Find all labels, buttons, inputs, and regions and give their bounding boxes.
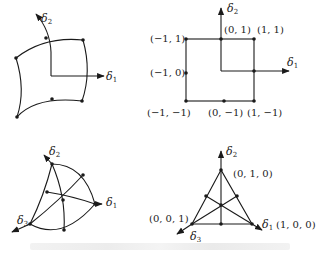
node-label-1-1: (1, 1) — [257, 24, 284, 35]
node — [45, 190, 49, 194]
node — [80, 99, 84, 103]
panel-curved-quad — [16, 14, 104, 117]
square-nodes — [184, 37, 256, 103]
delta1-label: δ1 — [106, 196, 117, 210]
node — [204, 194, 208, 198]
node — [252, 37, 256, 41]
panel-reference-triangle — [177, 151, 262, 234]
figure-caption — [30, 243, 290, 250]
quad-bottom-edge — [17, 100, 82, 117]
square-outline — [186, 39, 254, 101]
delta3-label: δ3 — [17, 214, 28, 228]
delta3-label: δ3 — [190, 230, 201, 244]
node — [61, 198, 65, 202]
node — [15, 115, 19, 119]
node — [81, 173, 85, 177]
node — [81, 38, 85, 42]
delta1-label: δ1 — [287, 56, 298, 70]
node — [28, 222, 32, 226]
node — [250, 222, 254, 226]
node — [222, 99, 226, 103]
node — [50, 97, 54, 101]
node — [219, 222, 223, 226]
node — [219, 168, 223, 172]
delta1-label: δ1 — [262, 218, 273, 232]
node-label-m1-1: (−1, 1) — [150, 33, 185, 44]
tri-median-2 — [47, 192, 95, 204]
node — [219, 37, 223, 41]
delta2-label: δ2 — [226, 145, 237, 159]
node — [14, 56, 18, 60]
delta2-label: δ2 — [227, 2, 238, 16]
quad-nodes — [14, 36, 85, 119]
quad-right-edge — [82, 40, 87, 101]
delta2-label: δ2 — [41, 12, 52, 26]
panel-reference-square — [186, 8, 289, 101]
node — [190, 222, 194, 226]
node-label-0-1: (0, 1) — [224, 24, 251, 35]
tri-outer-bottom — [30, 204, 95, 230]
node — [235, 194, 239, 198]
node — [93, 202, 97, 206]
node-label-010: (0, 1, 0) — [233, 168, 273, 179]
node — [252, 99, 256, 103]
node — [50, 162, 54, 166]
node-label-m1-m1: (−1, −1) — [147, 107, 191, 118]
delta1-label: δ1 — [106, 70, 117, 84]
tri-median-right — [206, 196, 252, 224]
delta2-label: δ2 — [49, 145, 60, 159]
node — [44, 36, 48, 40]
node-label-1-m1: (1, −1) — [247, 107, 282, 118]
tri-median-3 — [52, 164, 64, 230]
node — [62, 228, 66, 232]
diagram-canvas: δ2 δ1 δ2 δ1 (0, 1) (1, 1) (−1, 1) (−1, 0… — [0, 0, 318, 255]
node — [184, 99, 188, 103]
tri-median-1 — [30, 175, 83, 224]
node-label-100: (1, 0, 0) — [276, 219, 316, 230]
node-label-001: (0, 0, 1) — [149, 213, 189, 224]
quad-left-edge — [16, 58, 21, 117]
node-label-m1-0: (−1, 0) — [150, 67, 185, 78]
node — [219, 203, 223, 207]
node-label-0-m1: (0, −1) — [208, 107, 243, 118]
tri-median-left — [192, 196, 237, 224]
node — [252, 69, 256, 73]
